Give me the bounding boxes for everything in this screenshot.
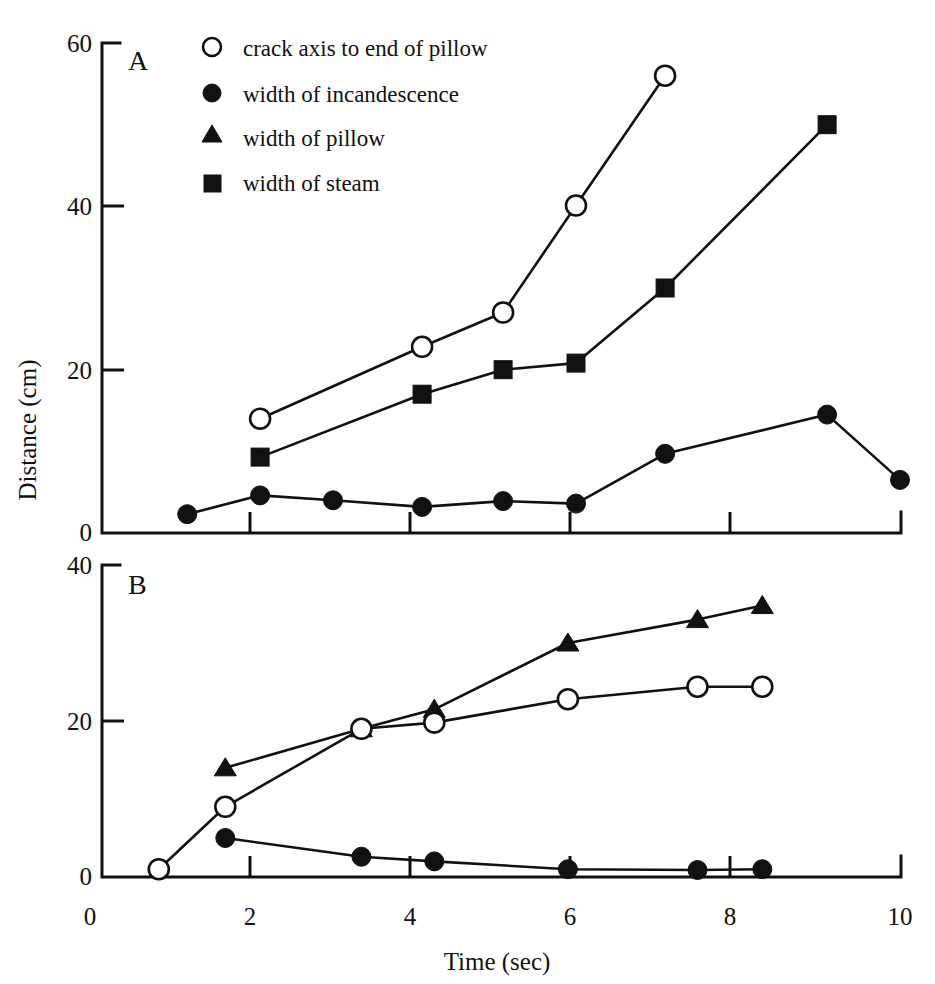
data-point-filled-circle	[567, 494, 586, 513]
data-point-filled-circle	[178, 505, 197, 524]
data-point-filled-circle	[251, 486, 270, 505]
series-polyline	[187, 415, 900, 515]
data-point-filled-square	[494, 361, 512, 379]
series-polyline	[225, 838, 762, 870]
panel-a-axes	[102, 43, 901, 533]
panel-a: 60 40 20 0 A	[67, 30, 910, 546]
panel-b-ylabel-40: 40	[67, 552, 92, 579]
data-point-filled-circle	[324, 491, 343, 510]
data-point-filled-square	[251, 448, 269, 466]
x-axis-title: Time (sec)	[444, 948, 551, 976]
data-point-filled-triangle	[751, 596, 773, 614]
data-point-filled-circle	[656, 444, 675, 463]
xlabel-0: 0	[84, 903, 97, 930]
figure-container: 60 40 20 0 A crack axis to end of pillow…	[0, 0, 935, 984]
xlabel-2: 2	[244, 903, 257, 930]
data-point-filled-circle	[753, 860, 772, 879]
xlabel-8: 8	[724, 903, 737, 930]
legend-marker-open-circle-icon	[203, 38, 221, 56]
data-point-open-circle	[215, 797, 235, 817]
data-point-open-circle	[351, 719, 371, 739]
data-point-filled-square	[818, 116, 836, 134]
panel-a-ylabel-60: 60	[67, 30, 92, 57]
chart-svg: 60 40 20 0 A crack axis to end of pillow…	[0, 0, 935, 984]
legend-marker-filled-circle-icon	[203, 84, 221, 102]
legend-label-1: width of incandescence	[243, 82, 459, 107]
series-width-of-incandescence	[216, 829, 772, 880]
data-point-filled-circle	[352, 847, 371, 866]
series-crack-axis-to-end-of-pillow	[250, 66, 675, 429]
series-width-of-incandescence	[178, 405, 910, 524]
data-point-open-circle	[424, 713, 444, 733]
data-point-open-circle	[655, 66, 675, 86]
data-point-filled-circle	[688, 861, 707, 880]
data-point-open-circle	[752, 677, 772, 697]
data-point-filled-square	[413, 385, 431, 403]
data-point-open-circle	[149, 859, 169, 879]
xlabel-6: 6	[564, 903, 577, 930]
data-point-open-circle	[412, 337, 432, 357]
data-point-open-circle	[493, 303, 513, 323]
data-point-filled-circle	[216, 829, 235, 848]
series-polyline	[225, 606, 762, 768]
data-point-open-circle	[558, 689, 578, 709]
data-point-filled-circle	[891, 470, 910, 489]
panel-b-letter: B	[128, 569, 147, 600]
panel-a-letter: A	[128, 45, 149, 76]
legend: crack axis to end of pillow width of inc…	[202, 36, 488, 196]
x-axis-labels: 0 2 4 6 8 10	[84, 903, 913, 930]
panel-a-ylabel-40: 40	[67, 193, 92, 220]
data-point-filled-circle	[558, 860, 577, 879]
legend-marker-filled-square-icon	[204, 175, 221, 192]
y-axis-title: Distance (cm)	[14, 360, 42, 501]
panel-a-ylabel-20: 20	[67, 357, 92, 384]
legend-marker-filled-triangle-icon	[202, 125, 222, 142]
legend-label-2: width of pillow	[243, 126, 385, 151]
series-width-of-steam	[251, 116, 836, 466]
panel-b-series	[149, 596, 774, 880]
legend-label-3: width of steam	[243, 171, 380, 196]
series-crack-axis-to-end-of-pillow	[149, 677, 773, 880]
data-point-open-circle	[688, 677, 708, 697]
data-point-filled-circle	[818, 405, 837, 424]
xlabel-10: 10	[888, 903, 913, 930]
data-point-filled-circle	[413, 497, 432, 516]
panel-b-ylabel-20: 20	[67, 708, 92, 735]
data-point-filled-square	[656, 279, 674, 297]
legend-label-0: crack axis to end of pillow	[243, 36, 488, 61]
panel-b-ylabel-0: 0	[80, 863, 93, 890]
data-point-open-circle	[566, 196, 586, 216]
panel-b: 40 20 0 B	[67, 552, 901, 890]
data-point-filled-square	[567, 354, 585, 372]
data-point-filled-circle	[494, 492, 513, 511]
data-point-open-circle	[250, 409, 270, 429]
data-point-filled-circle	[425, 852, 444, 871]
xlabel-4: 4	[404, 903, 417, 930]
panel-a-ylabel-0: 0	[80, 519, 93, 546]
